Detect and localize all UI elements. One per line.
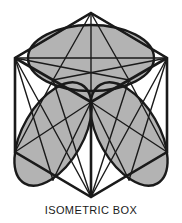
figure-caption: ISOMETRIC BOX (0, 204, 182, 216)
isometric-box-figure: ISOMETRIC BOX (0, 0, 182, 223)
isometric-box-drawing (0, 0, 182, 223)
